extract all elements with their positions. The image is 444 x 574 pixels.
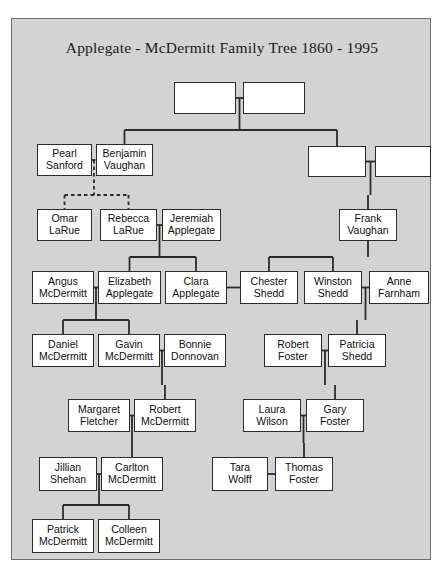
person-first-name: Daniel — [48, 339, 78, 351]
person-last-name: Wilson — [256, 416, 288, 428]
family-tree-page: Applegate - McDermitt Family Tree 1860 -… — [0, 0, 444, 574]
person-last-name: Applegate — [172, 288, 219, 300]
person-first-name: Robert — [149, 404, 181, 416]
person-last-name: Vaughan — [104, 160, 145, 172]
person-box-elizabeth-applegate[interactable]: ElizabethApplegate — [98, 271, 161, 304]
person-first-name: Angus — [48, 276, 78, 288]
person-box-daniel-mcdermitt[interactable]: DanielMcDermitt — [32, 334, 94, 367]
person-first-name: Gary — [324, 404, 347, 416]
person-last-name: LaRue — [49, 225, 80, 237]
person-last-name: McDermitt — [108, 474, 156, 486]
person-box-tara-wolff[interactable]: TaraWolff — [212, 457, 268, 491]
person-box-pearl-sanford[interactable]: PearlSanford — [37, 144, 92, 176]
person-box-gavin-mcdermitt[interactable]: GavinMcDermitt — [98, 334, 160, 367]
person-last-name: McDermitt — [141, 416, 189, 428]
person-last-name: McDermitt — [105, 351, 153, 363]
person-box-carlton-mcdermitt[interactable]: CarltonMcDermitt — [101, 457, 163, 491]
person-last-name: Shedd — [342, 351, 372, 363]
person-box-blank[interactable] — [174, 82, 236, 114]
person-first-name: Margaret — [78, 404, 120, 416]
person-last-name: McDermitt — [105, 536, 153, 548]
person-last-name: Foster — [278, 351, 308, 363]
person-last-name: Fletcher — [80, 416, 118, 428]
person-box-clara-applegate[interactable]: ClaraApplegate — [165, 271, 227, 304]
person-box-jeremiah-applegate[interactable]: JeremiahApplegate — [162, 209, 221, 241]
person-box-anne-farnham[interactable]: AnneFarnham — [369, 271, 429, 304]
person-first-name: Elizabeth — [108, 276, 151, 288]
person-last-name: Applegate — [106, 288, 153, 300]
diagram-sheet: Applegate - McDermitt Family Tree 1860 -… — [11, 18, 431, 560]
person-first-name: Chester — [251, 276, 288, 288]
person-first-name: Patricia — [339, 339, 374, 351]
person-last-name: Wolff — [228, 474, 252, 486]
person-first-name: Clara — [183, 276, 208, 288]
person-box-angus-mcdermitt[interactable]: AngusMcDermitt — [32, 271, 94, 304]
person-first-name: Gavin — [115, 339, 142, 351]
person-box-robert-foster[interactable]: RobertFoster — [264, 334, 322, 367]
person-box-omar-larue[interactable]: OmarLaRue — [37, 209, 92, 241]
person-first-name: Winston — [314, 276, 352, 288]
person-first-name: Robert — [277, 339, 309, 351]
person-box-blank[interactable] — [308, 146, 366, 177]
person-last-name: Foster — [289, 474, 319, 486]
person-box-laura-wilson[interactable]: LauraWilson — [243, 399, 301, 432]
person-box-frank-vaughan[interactable]: FrankVaughan — [339, 209, 397, 241]
person-box-chester-shedd[interactable]: ChesterShedd — [240, 271, 298, 304]
person-box-thomas-foster[interactable]: ThomasFoster — [275, 457, 333, 491]
person-box-bonnie-donnovan[interactable]: BonnieDonnovan — [164, 334, 226, 367]
person-last-name: Donnovan — [171, 351, 219, 363]
person-box-margaret-fletcher[interactable]: MargaretFletcher — [68, 399, 130, 432]
person-last-name: Shedd — [254, 288, 284, 300]
person-first-name: Bonnie — [179, 339, 212, 351]
person-last-name: Applegate — [168, 225, 215, 237]
person-last-name: Vaughan — [347, 225, 388, 237]
person-first-name: Laura — [259, 404, 286, 416]
person-box-winston-shedd[interactable]: WinstonShedd — [304, 271, 362, 304]
person-box-patrick-mcdermitt[interactable]: PatrickMcDermitt — [32, 519, 94, 553]
person-last-name: Shedd — [318, 288, 348, 300]
person-box-blank[interactable] — [375, 146, 431, 177]
person-box-rebecca-larue[interactable]: RebeccaLaRue — [100, 209, 157, 241]
person-box-colleen-mcdermitt[interactable]: ColleenMcDermitt — [98, 519, 160, 553]
person-box-patricia-shedd[interactable]: PatriciaShedd — [328, 334, 386, 367]
person-first-name: Anne — [387, 276, 412, 288]
person-box-robert-mcdermitt[interactable]: RobertMcDermitt — [134, 399, 196, 432]
person-box-benjamin-vaughan[interactable]: BenjaminVaughan — [96, 144, 153, 176]
person-last-name: LaRue — [113, 225, 144, 237]
person-last-name: Shehan — [50, 474, 86, 486]
person-box-jillian-shehan[interactable]: JillianShehan — [39, 457, 97, 491]
person-box-blank[interactable] — [243, 82, 305, 114]
person-last-name: McDermitt — [39, 536, 87, 548]
person-last-name: Sanford — [46, 160, 83, 172]
person-box-gary-foster[interactable]: GaryFoster — [306, 399, 364, 432]
person-last-name: Foster — [320, 416, 350, 428]
person-last-name: Farnham — [378, 288, 420, 300]
person-last-name: McDermitt — [39, 288, 87, 300]
person-last-name: McDermitt — [39, 351, 87, 363]
